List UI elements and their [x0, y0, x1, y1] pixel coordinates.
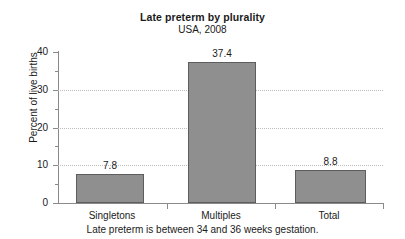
bar-chart-figure: Late preterm by plurality USA, 2008 Perc… [0, 0, 405, 239]
plot-area: 7.8 37.4 8.8 [58, 52, 383, 203]
y-tick-35 [55, 71, 58, 72]
bar-singletons [76, 174, 144, 203]
y-tick-10 [53, 165, 58, 166]
y-tick-label-40: 40 [8, 47, 48, 57]
chart-title: Late preterm by plurality [0, 11, 405, 23]
bar-value-singletons: 7.8 [76, 160, 144, 171]
y-axis-title: Percent of live births [28, 23, 39, 173]
x-label-total: Total [275, 210, 383, 221]
x-tick-boundary-3 [383, 204, 384, 209]
x-tick-boundary-1 [167, 204, 168, 209]
x-tick-boundary-2 [275, 204, 276, 209]
y-tick-0 [53, 203, 58, 204]
y-tick-25 [55, 109, 58, 110]
y-tick-label-30: 30 [8, 85, 48, 95]
bar-value-total: 8.8 [295, 156, 366, 167]
bar-total [295, 170, 366, 203]
x-label-multiples: Multiples [167, 210, 275, 221]
y-tick-40 [53, 52, 58, 53]
x-label-singletons: Singletons [58, 210, 166, 221]
y-tick-label-0: 0 [8, 198, 48, 208]
y-tick-5 [55, 184, 58, 185]
x-axis-line [58, 203, 384, 204]
chart-footnote: Late preterm is between 34 and 36 weeks … [0, 224, 405, 235]
bar-value-multiples: 37.4 [188, 48, 256, 59]
y-tick-label-10: 10 [8, 160, 48, 170]
bar-multiples [188, 62, 256, 203]
y-tick-15 [55, 146, 58, 147]
chart-subtitle: USA, 2008 [0, 24, 405, 35]
y-tick-label-20: 20 [8, 123, 48, 133]
y-tick-20 [53, 128, 58, 129]
y-tick-30 [53, 90, 58, 91]
